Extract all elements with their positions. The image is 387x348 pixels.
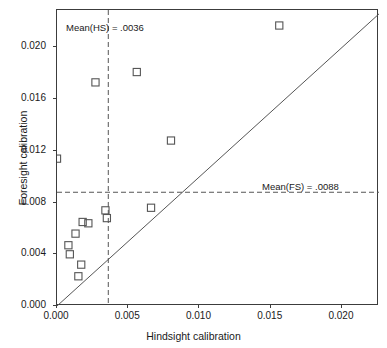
y-axis-title: Foresight calibration [17, 88, 29, 228]
x-tick-label: 0.000 [31, 311, 81, 321]
x-tick-mark [198, 305, 199, 308]
data-point [92, 79, 99, 86]
data-point [78, 261, 85, 268]
data-point [66, 251, 73, 258]
y-tick-mark [53, 98, 56, 99]
figure: 0.0000.0040.0080.0120.0160.020 0.0000.00… [0, 0, 387, 348]
y-tick-label: 0.020 [0, 41, 46, 51]
data-point [276, 22, 283, 29]
x-tick-label: 0.005 [102, 311, 152, 321]
plot-area [56, 9, 378, 305]
y-tick-mark [53, 253, 56, 254]
y-tick-label: 0.004 [0, 248, 46, 258]
scatter-plot-canvas [57, 10, 379, 306]
y-tick-mark [53, 202, 56, 203]
data-point [57, 155, 61, 162]
y-tick-mark [53, 150, 56, 151]
identity-reference-line [57, 14, 379, 306]
x-tick-label: 0.015 [245, 311, 295, 321]
x-tick-label: 0.020 [316, 311, 366, 321]
data-point [133, 68, 140, 75]
data-point [72, 230, 79, 237]
x-tick-mark [270, 305, 271, 308]
data-point [75, 273, 82, 280]
mean-foresight-label: Mean(FS) = .0088 [262, 181, 339, 192]
x-tick-label: 0.010 [173, 311, 223, 321]
identity-line [57, 14, 379, 306]
x-tick-mark [127, 305, 128, 308]
x-tick-mark [56, 305, 57, 308]
mean-hindsight-label: Mean(HS) = .0036 [66, 22, 144, 33]
data-point [103, 215, 110, 222]
x-axis-title: Hindsight calibration [0, 330, 387, 342]
data-point-group [57, 22, 283, 280]
y-tick-mark [53, 46, 56, 47]
data-point [147, 204, 154, 211]
data-point [167, 137, 174, 144]
y-tick-label: 0.000 [0, 300, 46, 310]
data-point [65, 242, 72, 249]
x-tick-mark [341, 305, 342, 308]
